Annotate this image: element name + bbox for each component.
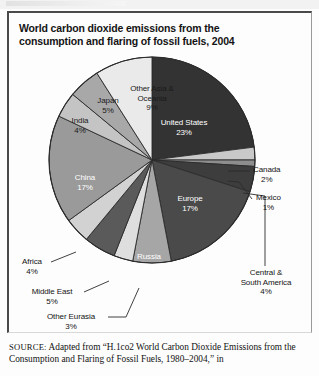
source-note: SOURCE: Adapted from “H.1co2 World Carbo… bbox=[9, 342, 309, 365]
out-label-canada: Canada 2% bbox=[253, 165, 280, 184]
source-text: Adapted from “H.1co2 World Carbon Dioxid… bbox=[9, 342, 296, 364]
out-label-middle-east: Middle East 5% bbox=[23, 287, 81, 306]
out-label-csa-pct: 4% bbox=[260, 287, 271, 296]
leader-line-middle-east bbox=[84, 281, 109, 292]
leader-line-africa bbox=[51, 252, 76, 262]
out-label-mexico-name: Mexico bbox=[256, 193, 281, 202]
out-label-mexico-pct: 1% bbox=[256, 203, 281, 213]
figure-page: World carbon dioxide emissions from the … bbox=[0, 0, 319, 376]
out-label-other-eurasia-name: Other Eurasia bbox=[47, 312, 95, 321]
out-label-canada-pct: 2% bbox=[253, 175, 280, 185]
leader-line-other-eurasia-2 bbox=[126, 288, 139, 317]
out-label-csa-line2: South America bbox=[241, 278, 292, 287]
out-label-mexico: Mexico 1% bbox=[256, 193, 281, 212]
leader-line-mexico-2 bbox=[228, 181, 239, 182]
out-label-csa-line1: Central & bbox=[250, 268, 282, 277]
out-label-canada-name: Canada bbox=[253, 165, 280, 174]
out-label-africa-name: Africa bbox=[22, 257, 42, 266]
source-prefix: SOURCE: bbox=[9, 342, 47, 352]
out-label-middle-east-pct: 5% bbox=[46, 297, 57, 306]
out-label-other-eurasia-pct: 3% bbox=[65, 322, 76, 331]
out-label-other-eurasia: Other Eurasia 3% bbox=[37, 312, 105, 331]
out-label-central-south-america: Central & South America 4% bbox=[228, 268, 304, 297]
leader-line-mexico bbox=[239, 182, 252, 199]
out-label-africa: Africa 4% bbox=[14, 257, 50, 276]
out-label-middle-east-name: Middle East bbox=[32, 287, 73, 296]
out-label-africa-pct: 4% bbox=[26, 267, 37, 276]
